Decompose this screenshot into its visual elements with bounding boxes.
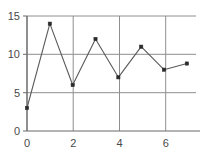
data-point (140, 45, 143, 48)
data-point (94, 37, 97, 40)
chart-canvas: 15 10 5 0 0 2 4 6 (0, 0, 206, 161)
data-point (48, 22, 51, 25)
data-point (162, 68, 165, 71)
data-point (117, 76, 120, 79)
y-tick-label-0: 0 (14, 125, 20, 137)
chart-background (0, 0, 206, 161)
x-tick-label-0: 0 (24, 137, 30, 149)
y-tick-label-5: 5 (14, 87, 20, 99)
y-tick-label-15: 15 (8, 10, 20, 22)
x-tick-label-2: 2 (70, 137, 76, 149)
x-tick-label-4: 4 (116, 137, 122, 149)
data-point (71, 83, 74, 86)
line-chart: 15 10 5 0 0 2 4 6 (0, 0, 206, 161)
data-point (185, 62, 188, 65)
data-point (25, 106, 28, 109)
x-tick-label-6: 6 (163, 137, 169, 149)
y-tick-label-10: 10 (8, 48, 20, 60)
